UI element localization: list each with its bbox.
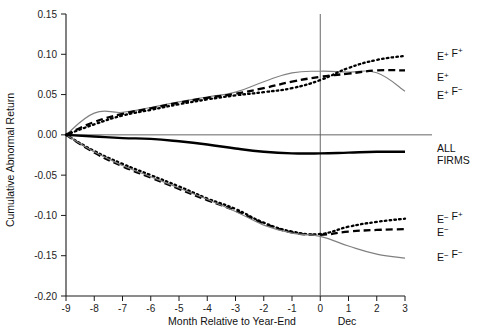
x-tick-label: 0 — [317, 303, 323, 314]
x-tick-label: 2 — [374, 303, 380, 314]
dec-marker-label: Dec — [338, 315, 357, 327]
x-tick-label: -5 — [175, 303, 184, 314]
x-tick-label: 1 — [346, 303, 352, 314]
x-tick-label: -1 — [288, 303, 297, 314]
y-tick-label: -0.20 — [34, 291, 57, 302]
y-tick-label: -0.05 — [34, 170, 57, 181]
y-tick-label: -0.15 — [34, 250, 57, 261]
y-tick-label: -0.10 — [34, 210, 57, 221]
x-tick-label: 3 — [402, 303, 408, 314]
y-axis-title: Cumulative Abnormal Return — [4, 93, 16, 227]
x-tick-label: -3 — [231, 303, 240, 314]
x-tick-label: -8 — [90, 303, 99, 314]
x-tick-label: -6 — [146, 303, 155, 314]
x-axis-title: Month Relative to Year-End — [168, 315, 296, 327]
x-tick-label: -7 — [118, 303, 127, 314]
series-label-all-firms: FIRMS — [437, 154, 470, 166]
x-tick-label: -2 — [259, 303, 268, 314]
chart-figure: 0.150.100.050.00-0.05-0.10-0.15-0.20 -9-… — [0, 0, 489, 336]
x-tick-label: -4 — [203, 303, 212, 314]
y-tick-label: 0.15 — [38, 9, 58, 20]
x-tick-label: -9 — [62, 303, 71, 314]
series-label-all-firms: ALL — [437, 142, 456, 154]
cumulative-abnormal-return-chart: 0.150.100.050.00-0.05-0.10-0.15-0.20 -9-… — [0, 0, 489, 336]
y-tick-label: 0.10 — [38, 49, 58, 60]
y-tick-label: 0.05 — [38, 89, 58, 100]
chart-background — [0, 0, 489, 336]
y-tick-label: 0.00 — [38, 129, 58, 140]
